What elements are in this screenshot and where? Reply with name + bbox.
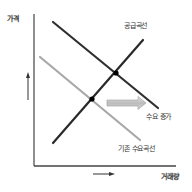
- x-axis-label: 거래량: [161, 174, 178, 181]
- demand-shift-arrow-icon: [107, 97, 146, 110]
- original-equilibrium-point: [89, 96, 94, 101]
- new-equilibrium-point: [113, 70, 118, 75]
- supply-demand-diagram: [0, 0, 192, 192]
- demand-increase-label: 수요 증가: [146, 114, 171, 121]
- x-axis-arrow-icon: [93, 172, 115, 176]
- y-axis-arrow-icon: [26, 72, 30, 100]
- y-axis-label: 가격: [7, 16, 19, 23]
- supply-curve: [53, 40, 143, 143]
- new-demand-curve: [53, 22, 158, 108]
- original-demand-curve-label: 기존 수요곡선: [118, 146, 155, 153]
- supply-curve-label: 공급곡선: [124, 23, 147, 30]
